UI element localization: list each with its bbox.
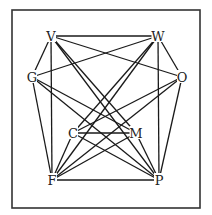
- node-w: W: [151, 29, 165, 44]
- node-label: W: [151, 29, 165, 44]
- node-label: C: [68, 126, 78, 141]
- edge-v-m: [51, 36, 136, 133]
- node-c: C: [68, 126, 78, 141]
- edge-c-p: [73, 133, 159, 180]
- node-label: V: [45, 29, 56, 44]
- node-label: O: [177, 70, 188, 85]
- edge-w-c: [73, 36, 158, 133]
- node-m: M: [129, 126, 142, 141]
- node-label: P: [155, 173, 164, 188]
- node-g: G: [27, 70, 37, 85]
- node-o: O: [177, 70, 188, 85]
- node-p: P: [154, 173, 164, 188]
- node-label: F: [47, 173, 56, 188]
- edge-o-c: [73, 77, 182, 133]
- node-v: V: [45, 29, 56, 44]
- edge-m-f: [52, 133, 136, 180]
- edge-v-f: [51, 36, 52, 180]
- edges-group: [32, 36, 182, 180]
- graph-diagram: VWGOCMFP: [0, 0, 212, 215]
- edge-g-m: [32, 77, 136, 133]
- edge-w-p: [158, 36, 159, 180]
- edge-g-f: [32, 77, 52, 180]
- node-label: G: [27, 70, 37, 85]
- node-label: M: [129, 126, 142, 141]
- node-f: F: [47, 173, 57, 188]
